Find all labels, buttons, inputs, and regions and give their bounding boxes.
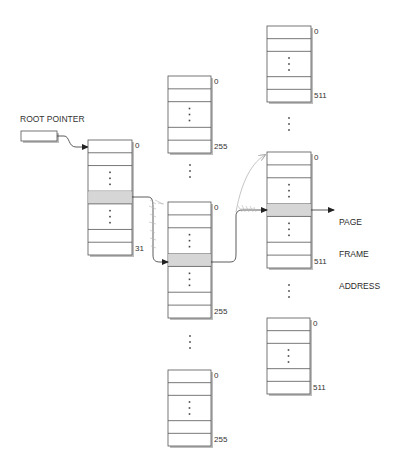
index-label-first: 0 — [135, 142, 139, 150]
root-pointer-label: ROOT POINTER — [20, 115, 85, 124]
page-table-diagram: ROOT POINTER PAGE FRAME ADDRESS 03102550… — [0, 0, 397, 472]
index-label-first: 0 — [314, 154, 318, 162]
index-label-first: 0 — [314, 28, 318, 36]
index-label-last: 511 — [314, 258, 327, 266]
page-table-level3-bot — [267, 318, 312, 396]
page-tables — [88, 26, 313, 448]
shaded-entry — [267, 204, 310, 217]
page-table-level2-top — [168, 76, 213, 155]
page-table-level3-mid — [267, 152, 313, 270]
page-frame-label-line: PAGE — [339, 217, 380, 228]
index-label-last: 511 — [313, 384, 326, 392]
index-label-last: 255 — [214, 436, 227, 444]
index-label-last: 511 — [314, 92, 327, 100]
vertical-ellipsis — [189, 335, 191, 349]
hatch-mark — [238, 205, 256, 212]
page-table-level2-mid — [168, 202, 213, 320]
index-label-last: 255 — [214, 143, 227, 151]
index-label-first: 0 — [214, 204, 218, 212]
index-label-first: 0 — [214, 372, 218, 380]
hatch-mark — [149, 200, 164, 248]
page-table-level1 — [88, 140, 134, 257]
page-frame-label-line: ADDRESS — [339, 281, 380, 292]
page-frame-address-label: PAGE FRAME ADDRESS — [339, 196, 380, 313]
page-table-level3-top — [267, 26, 313, 104]
root-pointer-arrow — [57, 136, 88, 147]
index-label-first: 0 — [214, 78, 218, 86]
root-pointer-box — [21, 131, 59, 143]
index-label-first: 0 — [313, 320, 317, 328]
page-table-level2-bot — [168, 370, 213, 448]
vertical-ellipsis — [288, 284, 290, 298]
index-label-last: 255 — [214, 308, 227, 316]
level2-to-level3-arrow — [211, 210, 267, 262]
faint-arrow-level3-top — [236, 155, 265, 212]
vertical-ellipsis — [189, 164, 191, 178]
index-label-last: 31 — [135, 245, 144, 253]
diagram-canvas — [0, 0, 397, 472]
shaded-entry — [88, 191, 131, 204]
page-frame-label-line: FRAME — [339, 249, 380, 260]
vertical-ellipsis — [288, 117, 290, 131]
shaded-entry — [168, 254, 210, 267]
